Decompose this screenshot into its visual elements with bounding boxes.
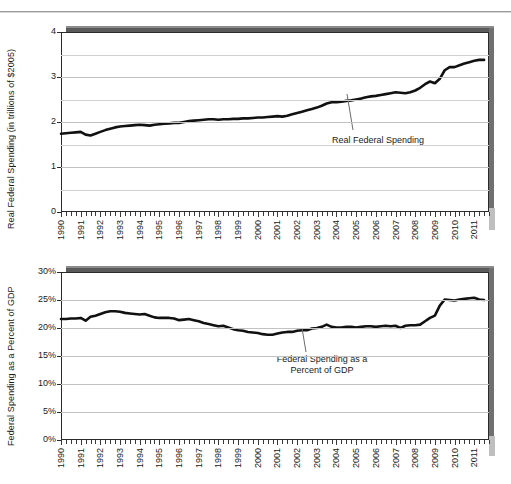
y-axis-label-top: Real Federal Spending (in trillions of $… [6, 46, 18, 232]
gridline [61, 328, 489, 329]
x-axis-minor-tick [361, 212, 362, 216]
x-axis-minor-tick [391, 212, 392, 216]
x-axis-minor-tick [214, 212, 215, 216]
x-axis-year-tick [81, 212, 82, 217]
x-axis-minor-tick [253, 212, 254, 216]
gridline [61, 55, 489, 56]
x-axis-minor-tick [346, 212, 347, 216]
x-axis-minor-tick [273, 212, 274, 216]
x-axis-year-tick [140, 212, 141, 217]
x-axis-minor-tick [469, 440, 470, 444]
x-axis-minor-tick [386, 440, 387, 444]
x-axis-tick-label: 1990 [56, 448, 66, 468]
x-axis-year-tick [435, 212, 436, 217]
y-axis-tick-mark [57, 167, 61, 168]
x-axis-minor-tick [346, 440, 347, 444]
y-axis-tick-mark [57, 384, 61, 385]
x-axis-year-tick [474, 440, 475, 445]
chart-federal-spending-percent-gdp: Federal Spending as a Percent of GDP Fed… [0, 262, 511, 484]
x-axis-minor-tick [135, 440, 136, 444]
x-axis-minor-tick [209, 440, 210, 444]
x-axis-minor-tick [150, 212, 151, 216]
x-axis-minor-tick [450, 212, 451, 216]
x-axis-tick-label: 1999 [233, 448, 243, 468]
x-axis-year-tick [376, 212, 377, 217]
x-axis-tick-label: 2011 [469, 448, 479, 467]
y-axis-tick-label: 30% [25, 266, 56, 276]
page-divider-rule-shadow [0, 12, 511, 13]
x-axis-year-tick [336, 212, 337, 217]
x-axis-year-tick [415, 212, 416, 217]
x-axis-year-tick [100, 440, 101, 445]
y-axis-tick-mark [57, 300, 61, 301]
x-axis-tick-label: 2003 [312, 220, 322, 240]
x-axis-minor-tick [440, 212, 441, 216]
x-axis-minor-tick [194, 212, 195, 216]
x-axis-tick-label: 2001 [272, 220, 282, 240]
x-axis-year-tick [199, 440, 200, 445]
x-axis-year-tick [474, 212, 475, 217]
chart-real-federal-spending: Real Federal Spending (in trillions of $… [0, 22, 511, 254]
x-axis-minor-tick [489, 212, 490, 216]
x-axis-tick-label: 1994 [135, 448, 145, 468]
x-axis-minor-tick [125, 440, 126, 444]
y-axis-tick-mark [57, 77, 61, 78]
x-axis-minor-tick [366, 440, 367, 444]
x-axis-minor-tick [110, 440, 111, 444]
y-axis-tick-mark [57, 412, 61, 413]
x-axis-year-tick [199, 212, 200, 217]
x-axis-minor-tick [125, 212, 126, 216]
y-axis-tick-label: 0% [25, 434, 56, 444]
x-axis-minor-tick [282, 212, 283, 216]
x-axis-minor-tick [307, 212, 308, 216]
x-axis-year-tick [336, 440, 337, 445]
x-axis-year-tick [218, 440, 219, 445]
x-axis-minor-tick [130, 212, 131, 216]
x-axis-year-tick [356, 440, 357, 445]
x-axis-tick-label: 2006 [371, 448, 381, 468]
x-axis-minor-tick [169, 212, 170, 216]
x-axis-tick-label: 2003 [312, 448, 322, 468]
x-axis-minor-tick [273, 440, 274, 444]
x-axis-year-tick [435, 440, 436, 445]
x-axis-minor-tick [391, 440, 392, 444]
y-axis-tick-mark [57, 122, 61, 123]
gridline [61, 100, 489, 101]
x-axis-minor-tick [71, 440, 72, 444]
x-axis-year-tick [258, 212, 259, 217]
x-axis-minor-tick [302, 212, 303, 216]
x-axis-tick-label: 1998 [213, 220, 223, 240]
x-axis-minor-tick [164, 212, 165, 216]
x-axis-minor-tick [248, 440, 249, 444]
x-axis-year-tick [218, 212, 219, 217]
x-axis-year-tick [376, 440, 377, 445]
y-axis-tick-label: 3 [25, 71, 56, 81]
x-axis-tick-label: 1997 [194, 220, 204, 240]
x-axis-year-tick [238, 440, 239, 445]
x-axis-year-tick [159, 212, 160, 217]
x-axis-tick-label: 2005 [351, 448, 361, 468]
x-axis-minor-tick [410, 440, 411, 444]
x-axis-minor-tick [66, 440, 67, 444]
x-axis-minor-tick [322, 440, 323, 444]
x-axis-minor-tick [302, 440, 303, 444]
x-axis-minor-tick [164, 440, 165, 444]
x-axis-minor-tick [425, 212, 426, 216]
x-axis-minor-tick [479, 440, 480, 444]
y-axis-tick-mark [57, 272, 61, 273]
y-axis-label-bottom: Federal Spending as a Percent of GDP [6, 278, 18, 454]
y-axis-tick-label: 4 [25, 26, 56, 36]
x-axis-minor-tick [154, 212, 155, 216]
x-axis-tick-label: 2002 [292, 448, 302, 468]
x-axis-year-tick [415, 440, 416, 445]
x-axis-minor-tick [248, 212, 249, 216]
x-axis-tick-label: 1995 [154, 448, 164, 468]
x-axis-minor-tick [282, 440, 283, 444]
x-axis-minor-tick [327, 212, 328, 216]
x-axis-minor-tick [405, 440, 406, 444]
x-axis-minor-tick [445, 212, 446, 216]
x-axis-tick-label: 1992 [95, 448, 105, 468]
x-axis-tick-label: 2010 [450, 448, 460, 468]
x-axis-minor-tick [135, 212, 136, 216]
chart-page: Real Federal Spending (in trillions of $… [0, 0, 511, 484]
